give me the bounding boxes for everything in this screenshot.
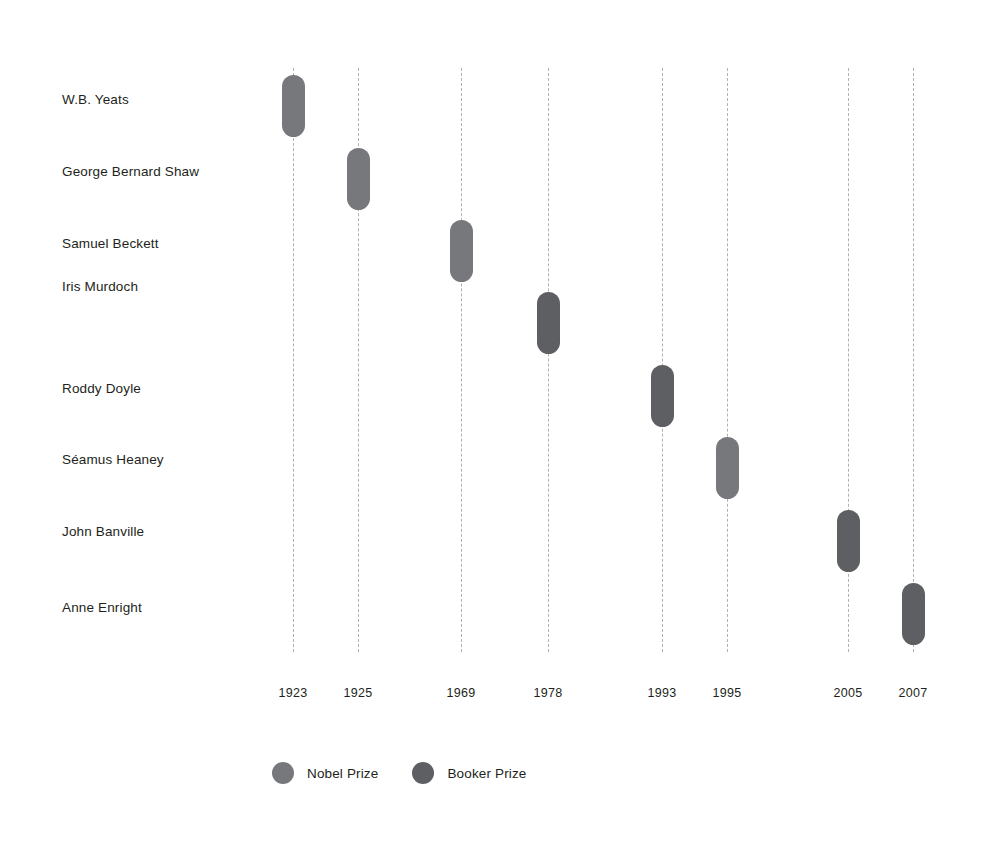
gridline <box>548 68 549 652</box>
category-label: Roddy Doyle <box>62 381 277 397</box>
category-label: John Banville <box>62 524 277 540</box>
legend-item[interactable]: Booker Prize <box>412 762 526 784</box>
x-tick-label: 1969 <box>426 686 496 700</box>
legend-swatch-circle-icon <box>412 762 434 784</box>
chart-bar <box>837 510 860 572</box>
x-tick-label: 2007 <box>878 686 948 700</box>
category-label: Anne Enright <box>62 600 277 616</box>
chart-bar <box>450 220 473 282</box>
legend-swatch-circle-icon <box>272 762 294 784</box>
chart-bar <box>347 148 370 210</box>
x-tick-label: 2005 <box>813 686 883 700</box>
legend-label: Nobel Prize <box>307 766 378 781</box>
x-tick-label: 1995 <box>692 686 762 700</box>
category-label: Samuel Beckett <box>62 236 277 252</box>
category-label: W.B. Yeats <box>62 92 277 108</box>
gridline <box>913 68 914 652</box>
chart-bar <box>651 365 674 427</box>
category-label: Iris Murdoch <box>62 279 277 295</box>
legend-label: Booker Prize <box>447 766 526 781</box>
chart-bar <box>537 292 560 354</box>
chart-legend: Nobel PrizeBooker Prize <box>272 762 527 784</box>
category-label: George Bernard Shaw <box>62 164 277 180</box>
chart-bar <box>282 75 305 137</box>
gridline <box>662 68 663 652</box>
x-tick-label: 1993 <box>627 686 697 700</box>
x-tick-label: 1978 <box>513 686 583 700</box>
prize-timeline-chart: W.B. YeatsGeorge Bernard ShawSamuel Beck… <box>0 0 994 856</box>
gridline <box>293 68 294 652</box>
x-tick-label: 1923 <box>258 686 328 700</box>
chart-bar <box>902 583 925 645</box>
legend-item[interactable]: Nobel Prize <box>272 762 378 784</box>
chart-bar <box>716 437 739 499</box>
x-tick-label: 1925 <box>323 686 393 700</box>
gridline <box>727 68 728 652</box>
gridline <box>461 68 462 652</box>
category-label: Séamus Heaney <box>62 452 277 468</box>
